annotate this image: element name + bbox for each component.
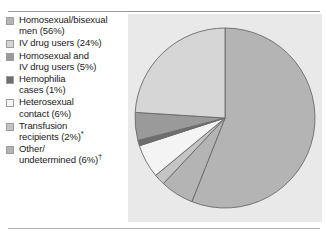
legend-item-label: Heterosexual contact (6%) [19,96,128,118]
legend-swatch-iv-drug-users [6,40,14,48]
legend-footnote-marker: * [81,129,84,138]
legend-item: Hemophilia cases (1%) [6,73,128,95]
legend-item: Homosexual and IV drug users (5%) [6,50,128,72]
pie-slice-group [135,28,315,208]
legend-swatch-heterosexual-contact [6,99,14,107]
top-divider-rule [8,11,320,12]
legend-item: Heterosexual contact (6%) [6,96,128,118]
legend-swatch-homosexual-bisexual-men [6,17,14,25]
legend-swatch-other-undetermined [6,146,14,154]
legend-item: Transfusion recipients (2%)* [6,120,128,142]
pie-slice-iv-drug-users [135,28,225,118]
plot-panel [128,14,322,222]
legend-swatch-homosexual-and-iv-drug-users [6,53,14,61]
legend-footnote-marker: † [98,152,102,161]
legend-swatch-hemophilia-cases [6,76,14,84]
legend-item: Other/ undetermined (6%)† [6,143,128,165]
legend-item-label: Homosexual and IV drug users (5%) [19,50,128,72]
legend-item-label: Homosexual/bisexual men (56%) [19,14,128,36]
figure-container: Homosexual/bisexual men (56%)IV drug use… [0,0,326,240]
legend-item-label: IV drug users (24%) [19,37,128,48]
legend-item: Homosexual/bisexual men (56%) [6,14,128,36]
legend-item-label: Other/ undetermined (6%)† [19,143,128,165]
legend-item: IV drug users (24%) [6,37,128,48]
legend-swatch-transfusion-recipients [6,123,14,131]
bottom-divider-rule [8,228,320,229]
legend-item-label: Hemophilia cases (1%) [19,73,128,95]
chart-legend: Homosexual/bisexual men (56%)IV drug use… [6,14,128,167]
legend-item-label: Transfusion recipients (2%)* [19,120,128,142]
pie-chart [128,14,322,222]
